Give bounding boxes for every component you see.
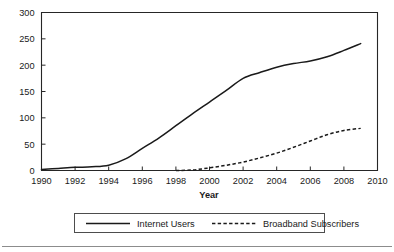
y-tick-label: 0 xyxy=(29,166,34,176)
x-axis-ticks: 1990199219941996199820002002200420062008… xyxy=(31,167,387,186)
x-tick-label: 2006 xyxy=(300,176,320,186)
series-broadband-subscribers xyxy=(176,128,361,170)
y-tick-label: 300 xyxy=(19,8,34,18)
plot-box xyxy=(42,13,378,171)
x-axis-title: Year xyxy=(199,190,219,200)
x-tick-label: 2002 xyxy=(233,176,253,186)
plot-frame xyxy=(42,13,378,171)
y-tick-label: 250 xyxy=(19,34,34,44)
x-tick-label: 1996 xyxy=(132,176,152,186)
x-tick-label: 1998 xyxy=(166,176,186,186)
y-tick-label: 150 xyxy=(19,87,34,97)
y-tick-label: 100 xyxy=(19,113,34,123)
chart-canvas: 050100150200250300 199019921994199619982… xyxy=(0,0,394,252)
chart-figure: 050100150200250300 199019921994199619982… xyxy=(0,0,394,252)
y-tick-label: 200 xyxy=(19,61,34,71)
data-series-group xyxy=(42,44,361,171)
x-tick-label: 1990 xyxy=(31,176,51,186)
x-tick-label: 2004 xyxy=(266,176,286,186)
x-tick-label: 1992 xyxy=(65,176,85,186)
legend-label-broadband-subscribers: Broadband Subscribers xyxy=(263,219,359,229)
series-internet-users xyxy=(42,44,361,170)
chart-legend: Internet Users Broadband Subscribers xyxy=(75,214,360,233)
x-tick-label: 2000 xyxy=(199,176,219,186)
x-tick-label: 2010 xyxy=(367,176,387,186)
x-tick-label: 1994 xyxy=(98,176,118,186)
y-tick-label: 50 xyxy=(24,140,34,150)
legend-label-internet-users: Internet Users xyxy=(137,219,195,229)
x-tick-label: 2008 xyxy=(334,176,354,186)
